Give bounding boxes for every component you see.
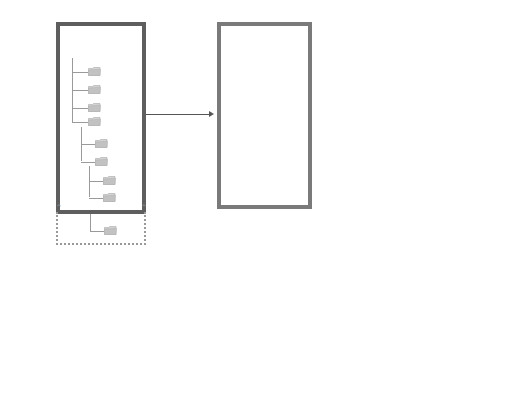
tree-branch xyxy=(89,181,103,182)
tree-branch xyxy=(72,90,88,91)
batch-layer-box xyxy=(56,22,146,214)
folder-icon xyxy=(103,176,116,185)
new-data-dashed-region xyxy=(56,212,146,245)
serving-layer-box xyxy=(217,22,312,209)
tree-branch xyxy=(89,198,103,199)
folder-icon xyxy=(88,67,101,76)
folder-icon xyxy=(88,103,101,112)
up-arrow-icon: ⌃ xyxy=(140,203,148,213)
folder-icon xyxy=(88,85,101,94)
arrowhead-icon xyxy=(209,111,214,117)
folder-icon xyxy=(104,226,117,235)
tree-branch xyxy=(90,231,104,232)
tree-branch xyxy=(72,108,88,109)
tree-line xyxy=(90,214,91,231)
tree-branch xyxy=(72,122,88,123)
up-arrow-icon: ⌃ xyxy=(55,203,63,213)
folder-icon xyxy=(103,193,116,202)
folder-icon xyxy=(95,139,108,148)
tree-branch xyxy=(81,162,95,163)
arrow-batch-to-serving xyxy=(146,114,210,115)
tree-branch xyxy=(81,144,95,145)
tree-branch xyxy=(72,72,88,73)
folder-icon xyxy=(88,117,101,126)
folder-icon xyxy=(95,157,108,166)
